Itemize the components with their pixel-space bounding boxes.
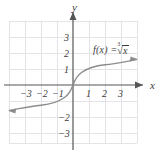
radicand: x <box>122 45 129 56</box>
y-tick-label-1: 1 <box>64 65 69 75</box>
function-equation-prefix: f(x) = <box>93 44 117 55</box>
x-tick-label-1: 1 <box>86 89 91 99</box>
y-axis-label: y <box>72 2 77 13</box>
x-tick-label-neg3: −3 <box>20 89 32 99</box>
y-tick-label-neg2: −2 <box>58 113 70 123</box>
graph-canvas <box>0 0 164 155</box>
radical-expression: 3√x <box>117 45 128 56</box>
x-tick-label-neg1: −1 <box>52 89 64 99</box>
x-tick-label-neg2: −2 <box>36 89 48 99</box>
function-equation-label: f(x) =3√x <box>93 45 129 56</box>
radical-index: 3 <box>117 41 120 47</box>
y-tick-label-neg3: −3 <box>58 129 70 139</box>
x-tick-label-3: 3 <box>118 89 123 99</box>
y-axis <box>70 12 77 150</box>
x-tick-label-2: 2 <box>102 89 107 99</box>
y-tick-label-3: 3 <box>64 33 69 43</box>
x-axis-label: x <box>150 80 155 91</box>
cube-root-function-figure: y x −3 −2 −1 1 2 3 3 2 1 −2 −3 f(x) =3√x <box>0 0 164 155</box>
y-tick-label-2: 2 <box>64 49 69 59</box>
